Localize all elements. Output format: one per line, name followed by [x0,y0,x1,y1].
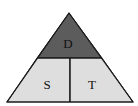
label-time: T [88,77,96,92]
label-distance: D [63,36,72,51]
bottom-right-section-time [70,58,133,102]
dst-triangle-diagram: D S T [0,0,138,106]
label-speed: S [43,77,50,92]
bottom-left-section-speed [7,58,70,102]
